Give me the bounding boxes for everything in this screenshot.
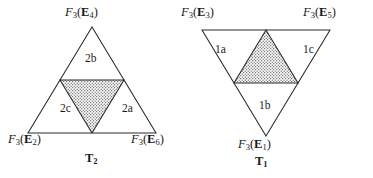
caption-t2-sub: 2 (93, 156, 97, 166)
region-label-2c: 2c (60, 103, 71, 115)
region-label-2a: 2a (122, 103, 133, 115)
caption-t1: T1 (255, 155, 268, 169)
region-label-1b: 1b (259, 100, 271, 112)
vertex-label-t1-top-right: F3(E5) (303, 6, 336, 20)
vertex-label-t1-bottom: F3(E1) (238, 138, 271, 152)
vertex-label-t2-bottom-left: F3(E2) (8, 133, 41, 147)
region-label-2b: 2b (85, 53, 97, 65)
vertex-label-t2-bottom-right: F3(E6) (131, 133, 164, 147)
caption-t2: T2 (85, 152, 98, 166)
region-label-1c: 1c (303, 44, 314, 56)
region-label-1a: 1a (215, 44, 226, 56)
vertex-label-F: F (238, 137, 246, 151)
vertex-label-F: F (181, 5, 189, 19)
figure-root: F3(E4) F3(E2) F3(E6) 2b 2c 2a T2 F3(E3) … (0, 0, 373, 178)
vertex-label-F: F (65, 5, 73, 19)
triangle-t2-group (28, 27, 156, 133)
vertex-label-F: F (131, 132, 139, 146)
vertex-label-t2-top: F3(E4) (65, 6, 98, 20)
vertex-label-F: F (303, 5, 311, 19)
caption-t1-sub: 1 (263, 159, 267, 169)
triangle-diagram (0, 0, 373, 178)
vertex-label-F: F (8, 132, 16, 146)
vertex-label-t1-top-left: F3(E3) (181, 6, 214, 20)
